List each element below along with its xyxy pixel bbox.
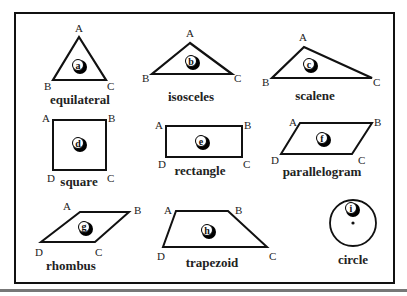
shape-name: scalene — [295, 88, 335, 103]
ball-marker: g — [79, 221, 94, 236]
shape-name: parallelogram — [283, 164, 362, 179]
vertex-label: C — [107, 172, 114, 184]
vertex-label: B — [142, 72, 149, 84]
shape-name: rectangle — [174, 163, 225, 178]
vertex-label: A — [186, 27, 194, 39]
ball-marker: d — [73, 138, 88, 153]
vertex-label: A — [289, 116, 297, 128]
vertex-label: C — [95, 246, 102, 258]
vertex-label: D — [157, 250, 165, 262]
shape-parallelogram: A B C D f parallelogram — [271, 116, 381, 179]
vertex-label: A — [155, 119, 163, 131]
ball-marker: e — [196, 136, 211, 151]
shape-rectangle: A B C D e rectangle — [155, 119, 251, 178]
vertex-label: A — [63, 200, 71, 212]
shape-letter: c — [307, 59, 312, 70]
shapes-diagram: A B C a equilateral A B C b isosceles A … — [0, 0, 407, 296]
vertex-label: A — [42, 112, 50, 124]
vertex-label: C — [373, 76, 380, 88]
shape-equilateral: A B C a equilateral — [44, 22, 114, 107]
shape-name: square — [60, 174, 98, 189]
shape-trapezoid: A B C D h trapezoid — [157, 204, 276, 270]
vertex-label: C — [107, 80, 114, 92]
shape-square: A B C D d square — [42, 112, 115, 189]
vertex-label: D — [35, 246, 43, 258]
shape-name: trapezoid — [186, 255, 239, 270]
vertex-label: D — [271, 154, 279, 166]
shape-name: equilateral — [50, 92, 110, 107]
shape-letter: e — [199, 136, 204, 147]
vertex-label: C — [234, 72, 241, 84]
ball-marker: f — [317, 133, 332, 148]
vertex-label: D — [47, 172, 55, 184]
shape-scalene: A B C c scalene — [262, 31, 380, 103]
shape-letter: b — [188, 56, 194, 67]
vertex-label: B — [262, 76, 269, 88]
shape-name: rhombus — [46, 258, 96, 273]
vertex-label: A — [75, 22, 83, 34]
shape-letter: a — [76, 60, 81, 71]
shape-name: circle — [338, 252, 368, 267]
shape-isosceles: A B C b isosceles — [142, 27, 241, 104]
vertex-label: B — [44, 80, 51, 92]
vertex-label: B — [108, 112, 115, 124]
ball-marker: b — [186, 56, 201, 71]
ball-marker: c — [304, 59, 319, 74]
shape-letter: d — [75, 138, 81, 149]
vertex-label: B — [374, 116, 381, 128]
vertex-label: A — [164, 204, 172, 216]
ball-marker: a — [73, 60, 88, 75]
shape-letter: g — [82, 221, 87, 232]
ball-marker: i — [346, 203, 361, 218]
vertex-label: B — [244, 119, 251, 131]
shape-letter: i — [350, 203, 353, 214]
ball-marker: h — [202, 225, 217, 240]
vertex-label: B — [235, 204, 242, 216]
center-point — [351, 221, 354, 224]
vertex-label: B — [134, 204, 141, 216]
shape-circle: i circle — [330, 200, 376, 267]
vertex-label: D — [158, 158, 166, 170]
shape-letter: h — [204, 225, 210, 236]
vertex-label: C — [269, 250, 276, 262]
vertex-label: A — [299, 31, 307, 43]
vertex-label: C — [243, 158, 250, 170]
shape-rhombus: A B C D g rhombus — [35, 200, 141, 273]
shape-name: isosceles — [168, 89, 214, 104]
